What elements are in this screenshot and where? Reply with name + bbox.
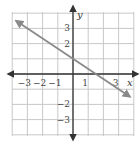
coordinate-plane: −3−2−11332−2−3 x y bbox=[0, 0, 140, 147]
x-tick-label: −3 bbox=[18, 78, 32, 88]
y-axis-label: y bbox=[76, 9, 83, 20]
x-axis-label: x bbox=[127, 77, 133, 88]
y-tick-label: −3 bbox=[57, 115, 71, 125]
y-tick-label: 2 bbox=[64, 39, 70, 49]
x-tick-label: −1 bbox=[48, 78, 61, 88]
y-tick-label: −2 bbox=[57, 99, 70, 109]
x-tick-label: −2 bbox=[33, 78, 46, 88]
y-tick-label: 3 bbox=[64, 23, 70, 33]
x-tick-label: 1 bbox=[82, 78, 88, 88]
